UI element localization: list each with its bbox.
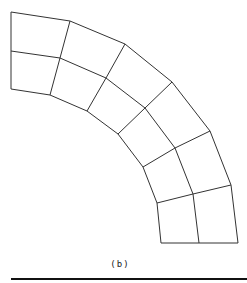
bottom-rule <box>11 278 247 280</box>
figure-caption: (b) <box>0 259 240 269</box>
radial-edge <box>118 82 172 134</box>
radial-edge <box>50 21 70 95</box>
element-mesh <box>0 0 247 283</box>
radial-edge <box>87 44 125 111</box>
radial-edge <box>143 131 210 167</box>
inner-arc <box>11 89 161 243</box>
mesh-lines <box>11 12 238 243</box>
